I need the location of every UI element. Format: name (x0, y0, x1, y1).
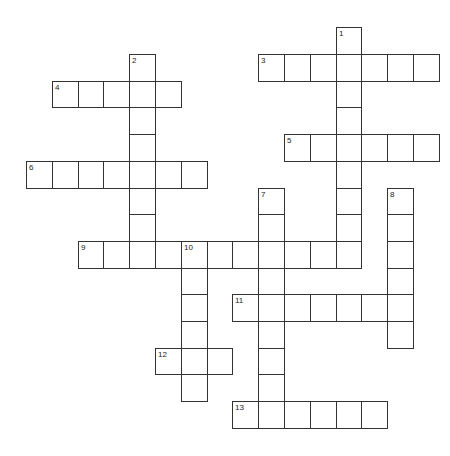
letter-input[interactable] (182, 322, 207, 348)
letter-input[interactable] (259, 215, 284, 241)
crossword-cell[interactable] (284, 241, 311, 269)
crossword-cell[interactable] (258, 241, 285, 269)
crossword-cell[interactable] (129, 134, 156, 162)
crossword-cell[interactable] (310, 134, 337, 162)
letter-input[interactable] (208, 242, 232, 268)
crossword-cell[interactable] (258, 268, 285, 295)
letter-input[interactable] (182, 162, 207, 188)
crossword-cell[interactable] (310, 241, 337, 269)
letter-input[interactable] (233, 242, 258, 268)
crossword-cell[interactable] (258, 214, 285, 242)
crossword-cell[interactable]: 9 (78, 241, 104, 269)
letter-input[interactable] (259, 269, 284, 294)
letter-input[interactable] (156, 242, 181, 268)
crossword-cell[interactable] (181, 268, 208, 295)
crossword-cell[interactable] (361, 54, 388, 82)
letter-input[interactable] (388, 215, 413, 241)
crossword-cell[interactable] (258, 374, 285, 402)
letter-input[interactable] (337, 108, 361, 134)
crossword-cell[interactable] (336, 188, 362, 215)
letter-input[interactable] (79, 82, 103, 107)
crossword-cell[interactable] (103, 241, 130, 269)
crossword-cell[interactable] (310, 401, 337, 429)
crossword-cell[interactable] (103, 161, 130, 189)
crossword-cell[interactable] (336, 241, 362, 269)
letter-input[interactable] (259, 322, 284, 348)
crossword-cell[interactable] (387, 54, 414, 82)
crossword-cell[interactable]: 3 (258, 54, 285, 82)
letter-input[interactable] (259, 189, 284, 214)
crossword-cell[interactable] (284, 401, 311, 429)
crossword-cell[interactable] (361, 134, 388, 162)
crossword-cell[interactable] (258, 321, 285, 349)
letter-input[interactable] (130, 242, 155, 268)
letter-input[interactable] (130, 162, 155, 188)
crossword-cell[interactable]: 4 (52, 81, 79, 108)
crossword-cell[interactable] (387, 241, 414, 269)
crossword-cell[interactable] (181, 321, 208, 349)
letter-input[interactable] (362, 135, 387, 161)
letter-input[interactable] (388, 135, 413, 161)
letter-input[interactable] (259, 349, 284, 374)
letter-input[interactable] (362, 295, 387, 321)
letter-input[interactable] (285, 402, 310, 428)
letter-input[interactable] (156, 82, 181, 107)
letter-input[interactable] (208, 349, 232, 374)
crossword-cell[interactable] (336, 294, 362, 322)
crossword-cell[interactable] (232, 241, 259, 269)
crossword-cell[interactable] (78, 161, 104, 189)
crossword-cell[interactable] (336, 401, 362, 429)
crossword-cell[interactable] (387, 214, 414, 242)
crossword-cell[interactable] (155, 81, 182, 108)
letter-input[interactable] (337, 82, 361, 107)
crossword-cell[interactable]: 12 (155, 348, 182, 375)
crossword-cell[interactable] (103, 81, 130, 108)
letter-input[interactable] (27, 162, 52, 188)
crossword-cell[interactable] (207, 241, 233, 269)
crossword-cell[interactable] (336, 54, 362, 82)
crossword-cell[interactable] (78, 81, 104, 108)
crossword-cell[interactable] (336, 214, 362, 242)
crossword-cell[interactable] (284, 294, 311, 322)
letter-input[interactable] (53, 162, 78, 188)
crossword-cell[interactable] (258, 401, 285, 429)
letter-input[interactable] (337, 402, 361, 428)
crossword-cell[interactable] (129, 161, 156, 189)
letter-input[interactable] (311, 402, 336, 428)
crossword-cell[interactable] (336, 134, 362, 162)
crossword-cell[interactable] (129, 81, 156, 108)
letter-input[interactable] (337, 162, 361, 188)
crossword-cell[interactable] (387, 134, 414, 162)
letter-input[interactable] (104, 82, 129, 107)
letter-input[interactable] (104, 162, 129, 188)
letter-input[interactable] (259, 402, 284, 428)
crossword-cell[interactable]: 2 (129, 54, 156, 82)
crossword-cell[interactable] (181, 294, 208, 322)
crossword-cell[interactable] (387, 294, 414, 322)
crossword-cell[interactable] (155, 241, 182, 269)
crossword-cell[interactable] (361, 294, 388, 322)
letter-input[interactable] (104, 242, 129, 268)
letter-input[interactable] (285, 135, 310, 161)
letter-input[interactable] (130, 215, 155, 241)
letter-input[interactable] (337, 189, 361, 214)
crossword-cell[interactable]: 11 (232, 294, 259, 322)
crossword-cell[interactable] (387, 268, 414, 295)
letter-input[interactable] (156, 349, 181, 374)
letter-input[interactable] (362, 55, 387, 81)
letter-input[interactable] (182, 375, 207, 401)
letter-input[interactable] (233, 402, 258, 428)
crossword-cell[interactable]: 1 (336, 27, 362, 55)
letter-input[interactable] (337, 215, 361, 241)
letter-input[interactable] (130, 82, 155, 107)
letter-input[interactable] (337, 295, 361, 321)
crossword-cell[interactable] (258, 348, 285, 375)
letter-input[interactable] (337, 28, 361, 54)
crossword-cell[interactable] (129, 107, 156, 135)
letter-input[interactable] (388, 242, 413, 268)
letter-input[interactable] (182, 295, 207, 321)
letter-input[interactable] (130, 108, 155, 134)
crossword-cell[interactable] (258, 294, 285, 322)
crossword-cell[interactable] (129, 214, 156, 242)
letter-input[interactable] (285, 242, 310, 268)
